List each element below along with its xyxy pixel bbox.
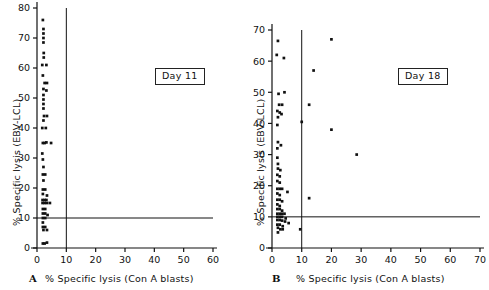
data-point (42, 212, 45, 215)
data-point (46, 202, 49, 205)
data-point (42, 221, 45, 224)
data-point (281, 225, 284, 228)
y-tick-label: 80 (18, 2, 30, 13)
data-point (312, 69, 315, 72)
data-point (46, 82, 49, 85)
data-point (284, 217, 287, 220)
data-point (283, 91, 286, 94)
data-point (281, 209, 284, 212)
data-point (276, 180, 279, 183)
data-point (44, 226, 47, 229)
data-point (281, 216, 284, 219)
data-point (276, 187, 279, 190)
data-point (46, 241, 49, 244)
data-point (45, 64, 48, 67)
x-tick-label: 50 (415, 254, 427, 265)
y-tick-label: 60 (18, 62, 30, 73)
data-point (278, 205, 281, 208)
y-tick-label: 70 (18, 32, 30, 43)
data-point (43, 82, 46, 85)
data-point (330, 38, 333, 41)
data-point (42, 37, 45, 40)
data-point (287, 222, 290, 225)
y-tick-label: 60 (253, 56, 265, 67)
data-point (42, 193, 45, 196)
data-point (286, 191, 289, 194)
x-tick-label: 10 (60, 254, 72, 265)
data-point (44, 217, 47, 220)
data-point (277, 92, 280, 95)
data-point (276, 147, 279, 150)
data-point (276, 203, 279, 206)
data-point (279, 169, 282, 172)
data-point (42, 98, 45, 101)
data-point (43, 115, 46, 118)
data-point (42, 19, 45, 22)
data-point (41, 152, 44, 155)
data-point (277, 116, 280, 119)
data-point (281, 200, 284, 203)
data-point (41, 127, 44, 130)
panel-letter-b: B (272, 273, 280, 284)
data-point (355, 153, 358, 156)
data-point (46, 229, 49, 232)
data-point (50, 142, 53, 145)
data-point (278, 181, 281, 184)
x-tick-label: 60 (207, 254, 219, 265)
data-point (276, 212, 279, 215)
data-point (276, 208, 279, 211)
data-point (42, 94, 45, 97)
data-point (308, 197, 311, 200)
data-point (277, 226, 280, 229)
y-tick-label: 70 (253, 24, 265, 35)
panel-a-day-11: 010203040506070800102030405060 % Specifi… (0, 0, 245, 290)
data-point (46, 214, 49, 217)
data-point (41, 64, 44, 67)
data-point (276, 216, 279, 219)
data-point (44, 127, 47, 130)
data-point (42, 229, 45, 232)
data-point (281, 103, 284, 106)
data-point (42, 173, 45, 176)
x-tick-label: 50 (178, 254, 190, 265)
data-point (275, 54, 278, 57)
day-label-box-a: Day 11 (155, 68, 205, 85)
x-tick-label: 70 (474, 254, 486, 265)
data-point (277, 231, 280, 234)
x-axis-label-a: % Specific lysis (Con A blasts) (45, 273, 194, 284)
data-point (278, 103, 281, 106)
data-point (284, 220, 287, 223)
data-point (278, 198, 281, 201)
scatter-plot-b: 010203040506070010203040506070 (244, 0, 489, 290)
x-tick-label: 0 (269, 254, 275, 265)
x-tick-label: 60 (444, 254, 456, 265)
data-point (42, 41, 45, 44)
data-point (300, 121, 303, 124)
data-point (279, 228, 282, 231)
data-point (308, 103, 311, 106)
data-point (42, 208, 45, 211)
data-point (299, 228, 302, 231)
data-point (42, 52, 45, 55)
data-point (280, 113, 283, 116)
data-point (330, 128, 333, 131)
data-point (42, 119, 45, 122)
data-point (276, 192, 279, 195)
data-point (276, 223, 279, 226)
data-point (42, 188, 45, 191)
data-point (278, 187, 281, 190)
x-tick-label: 20 (325, 254, 337, 265)
data-point (44, 208, 47, 211)
data-point (42, 158, 45, 161)
scatter-plot-a: 010203040506070800102030405060 (0, 0, 245, 290)
x-tick-label: 20 (90, 254, 102, 265)
data-point (43, 242, 46, 245)
data-point (277, 163, 280, 166)
x-tick-label: 0 (34, 254, 40, 265)
data-point (44, 173, 47, 176)
data-point (42, 88, 45, 91)
data-point (280, 144, 283, 147)
panel-b-day-18: 010203040506070010203040506070 (244, 0, 489, 290)
data-point (281, 219, 284, 222)
data-point (277, 167, 280, 170)
